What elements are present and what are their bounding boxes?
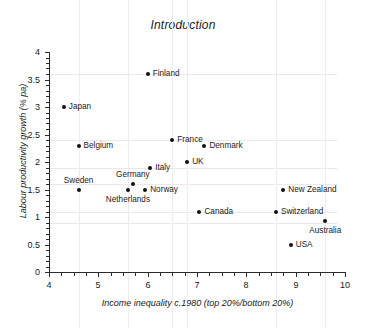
data-point-label: Belgium (84, 141, 114, 150)
data-point-label: Norway (150, 185, 178, 194)
x-axis-tick-label: 7 (184, 281, 210, 290)
x-axis-minor-tick (234, 273, 235, 276)
data-point-label: Canada (204, 207, 233, 216)
data-point (197, 210, 201, 214)
x-axis-tick (246, 273, 247, 277)
plot-area: JapanBelgiumSwedenNetherlandsGermanyNorw… (49, 52, 345, 272)
x-axis-minor-tick (333, 273, 334, 276)
data-point (148, 166, 152, 170)
x-axis-tick-label: 8 (233, 281, 259, 290)
data-point (143, 188, 147, 192)
data-point-label: Switzerland (281, 207, 323, 216)
x-axis-minor-tick (209, 273, 210, 276)
data-point-label: Netherlands (106, 195, 150, 204)
data-point (77, 188, 81, 192)
scatter-plot-figure: Introduction 00.511.522.533.54 45678910 … (0, 0, 366, 328)
data-point (146, 72, 150, 76)
x-axis-tick-label: 5 (85, 281, 111, 290)
data-point-label: France (177, 135, 202, 144)
data-point (281, 188, 285, 192)
x-axis-tick (345, 273, 346, 277)
data-point-label: Finland (153, 69, 180, 78)
data-point (126, 188, 130, 192)
x-axis-minor-tick (283, 273, 284, 276)
data-point-label: USA (296, 240, 313, 249)
x-axis-minor-tick (160, 273, 161, 276)
page-title: Introduction (0, 18, 366, 32)
data-point (77, 144, 81, 148)
x-axis-tick (197, 273, 198, 277)
x-axis-minor-tick (111, 273, 112, 276)
x-axis-minor-tick (135, 273, 136, 276)
data-point (202, 144, 206, 148)
x-axis-tick (148, 273, 149, 277)
x-axis-tick-label: 6 (135, 281, 161, 290)
data-point-label: UK (192, 157, 203, 166)
y-axis-title: Labour productivity growth (% pa) (18, 51, 28, 251)
x-axis-minor-tick (320, 273, 321, 276)
data-point-label: Germany (116, 170, 150, 179)
data-point-label: Denmark (209, 141, 242, 150)
x-axis-tick-label: 9 (283, 281, 309, 290)
x-axis-minor-tick (123, 273, 124, 276)
data-point (323, 219, 327, 223)
data-point-label: Australia (309, 226, 341, 235)
data-point (62, 105, 66, 109)
data-point (274, 210, 278, 214)
data-point (289, 243, 293, 247)
data-point (170, 138, 174, 142)
x-axis-minor-tick (74, 273, 75, 276)
data-point-label: Sweden (64, 176, 94, 185)
x-axis-tick-label: 10 (332, 281, 358, 290)
x-axis-title: Income inequality c.1980 (top 20%/bottom… (49, 298, 346, 308)
x-axis-minor-tick (259, 273, 260, 276)
x-axis-minor-tick (222, 273, 223, 276)
data-point-label: New Zealand (288, 185, 336, 194)
data-point-label: Italy (155, 163, 170, 172)
x-axis-minor-tick (61, 273, 62, 276)
x-axis-tick (98, 273, 99, 277)
x-axis-minor-tick (172, 273, 173, 276)
x-axis-minor-tick (86, 273, 87, 276)
x-axis-tick-label: 4 (36, 281, 62, 290)
x-axis-minor-tick (185, 273, 186, 276)
x-axis-tick (49, 273, 50, 277)
data-point-label: Japan (69, 102, 91, 111)
x-axis-minor-tick (308, 273, 309, 276)
y-axis-tick-label: 0 (14, 268, 40, 277)
data-point (131, 182, 135, 186)
x-axis-minor-tick (271, 273, 272, 276)
data-point (185, 160, 189, 164)
x-axis-tick (296, 273, 297, 277)
